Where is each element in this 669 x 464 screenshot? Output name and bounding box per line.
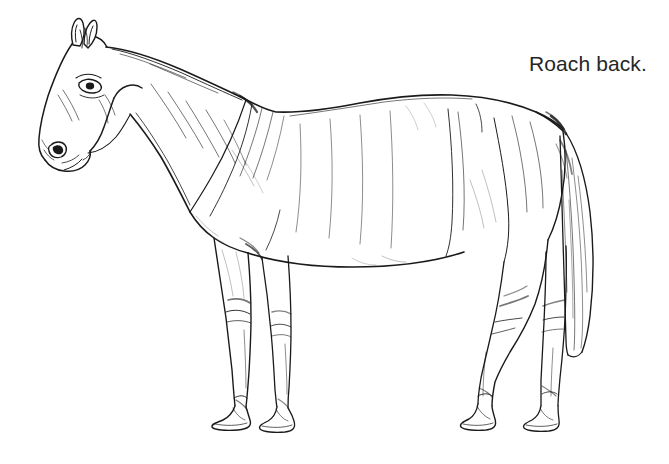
illustration-page: Roach back. <box>0 0 669 464</box>
caption-roach-back: Roach back. <box>529 52 647 75</box>
